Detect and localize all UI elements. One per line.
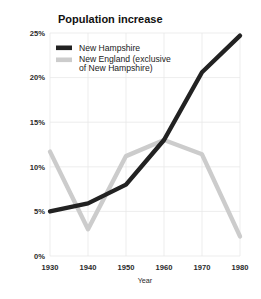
y-tick-label: 5% [34, 207, 45, 216]
x-tick-label: 1980 [232, 263, 249, 272]
x-tick-label: 1930 [42, 263, 59, 272]
x-axis-tick-labels: 193019401950196019701980 [42, 263, 249, 272]
chart-title: Population increase [58, 13, 163, 25]
x-tick-label: 1950 [118, 263, 135, 272]
legend-label-new-england-line2: of New Hampshire) [79, 63, 153, 73]
x-tick-label: 1940 [80, 263, 97, 272]
y-tick-label: 25% [30, 29, 45, 38]
y-tick-label: 0% [34, 252, 45, 261]
legend-swatch-new-england [56, 58, 72, 63]
y-tick-label: 10% [30, 163, 45, 172]
x-tick-label: 1970 [194, 263, 211, 272]
chart-container: Population increase 0%5%10%15%20%25% 193… [0, 0, 261, 299]
x-tick-label: 1960 [156, 263, 173, 272]
population-increase-line-chart: Population increase 0%5%10%15%20%25% 193… [0, 0, 261, 299]
y-tick-label: 15% [30, 118, 45, 127]
x-axis-title: Year [138, 276, 153, 285]
y-tick-label: 20% [30, 73, 45, 82]
legend-label-new-hampshire: New Hampshire [79, 43, 140, 53]
y-axis-tick-labels: 0%5%10%15%20%25% [30, 29, 45, 261]
legend-swatch-new-hampshire [56, 46, 72, 51]
